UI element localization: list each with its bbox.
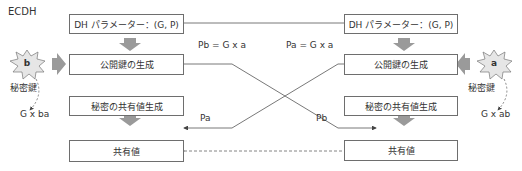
left-pubkey-gen-box: 公開鍵の生成	[69, 54, 184, 75]
left-pub-formula: Pb = G x a	[198, 40, 246, 50]
right-pubkey-gen-label: 公開鍵の生成	[374, 58, 428, 71]
left-received-key: Pa	[200, 113, 211, 123]
left-shared-box: 共有値	[69, 140, 184, 162]
left-pubkey-gen-label: 公開鍵の生成	[100, 58, 154, 71]
right-pub-formula: Pa = G x a	[286, 40, 333, 50]
left-secret-gen-label: 秘密の共有値生成	[91, 100, 163, 113]
right-private-key: a	[484, 58, 504, 68]
left-private-key: b	[17, 58, 37, 68]
right-secret-gen-box: 秘密の共有値生成	[344, 96, 458, 116]
left-dh-params-label: DH パラメーター：(G, P)	[74, 18, 179, 31]
left-result: G x ba	[20, 109, 49, 119]
left-secret-gen-box: 秘密の共有値生成	[69, 96, 184, 116]
right-private-key-label: 秘密鍵	[468, 81, 495, 94]
right-pubkey-gen-box: 公開鍵の生成	[344, 54, 458, 75]
right-result: G x ab	[481, 109, 510, 119]
left-shared-label: 共有値	[113, 145, 140, 158]
right-secret-gen-label: 秘密の共有値生成	[365, 100, 437, 113]
right-shared-box: 共有値	[344, 140, 458, 161]
down-arrow-icon	[119, 38, 141, 51]
right-received-key: Pb	[316, 113, 327, 123]
right-dh-params-label: DH パラメーター：(G, P)	[349, 18, 454, 31]
right-arrow-icon	[52, 53, 66, 75]
left-arrow-icon	[456, 53, 470, 75]
down-arrow-icon	[393, 38, 415, 51]
right-shared-label: 共有値	[388, 144, 415, 157]
right-dh-params-box: DH パラメーター：(G, P)	[344, 14, 458, 34]
left-dh-params-box: DH パラメーター：(G, P)	[69, 14, 184, 34]
left-private-key-label: 秘密鍵	[10, 81, 37, 94]
